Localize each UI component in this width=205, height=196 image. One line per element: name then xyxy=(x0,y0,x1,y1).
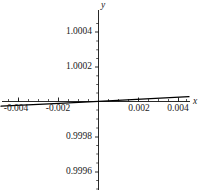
y-axis-label: y xyxy=(101,1,105,11)
y-tick-label-2: 1.0002 xyxy=(66,62,92,72)
x-axis-label: x xyxy=(193,97,197,107)
x-tick-label-1: -0.004 xyxy=(4,104,29,114)
plot-canvas: 1.0004 1.0002 0.9998 0.9996 -0.004 -0.00… xyxy=(0,0,205,196)
y-tick-label-4: 0.9996 xyxy=(66,167,92,177)
y-tick-label-1: 1.0004 xyxy=(66,27,92,37)
x-tick-label-4: 0.004 xyxy=(167,104,188,114)
y-tick-label-3: 0.9998 xyxy=(66,132,92,142)
x-tick-label-2: -0.002 xyxy=(46,104,71,114)
x-tick-label-3: 0.002 xyxy=(128,104,149,114)
plot-graphics xyxy=(0,0,205,196)
